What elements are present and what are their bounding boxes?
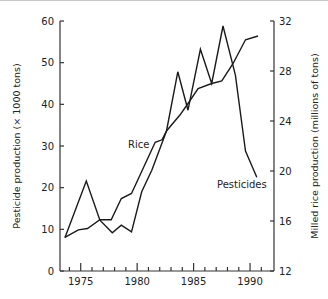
x-tick-label: 1980 — [124, 276, 149, 287]
rice-label: Rice — [128, 139, 149, 150]
series-lines — [65, 26, 258, 238]
x-tick-label: 1990 — [237, 276, 262, 287]
right-y-tick-label: 32 — [279, 16, 292, 27]
left-y-tick-label: 0 — [48, 266, 54, 277]
left-axis-title: Pesticide production (× 1000 tons) — [11, 63, 22, 228]
pesticides-label: Pesticides — [217, 179, 267, 190]
series-line-rice — [65, 36, 258, 237]
x-tick-label: 1985 — [181, 276, 206, 287]
left-y-tick-label: 30 — [41, 141, 54, 152]
left-y-tick-label: 20 — [41, 182, 54, 193]
right-axis-title: Milled rice production (millions of tons… — [309, 53, 320, 238]
dual-axis-line-chart: 0102030405060121620242832197519801985199… — [0, 0, 328, 299]
right-y-tick-label: 28 — [279, 66, 292, 77]
right-y-tick-label: 20 — [279, 166, 292, 177]
right-y-tick-label: 16 — [279, 216, 292, 227]
left-y-tick-label: 40 — [41, 99, 54, 110]
right-y-tick-label: 24 — [279, 116, 292, 127]
left-y-tick-label: 50 — [41, 57, 54, 68]
axes: 0102030405060121620242832197519801985199… — [41, 16, 291, 288]
x-tick-label: 1975 — [68, 276, 93, 287]
series-line-pesticides — [65, 26, 257, 238]
right-y-tick-label: 12 — [279, 266, 292, 277]
left-y-tick-label: 10 — [41, 224, 54, 235]
left-y-tick-label: 60 — [41, 16, 54, 27]
